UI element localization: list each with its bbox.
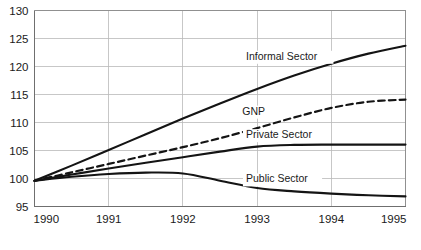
chart-canvas: 13012512011511010510095 1990199119921993… — [0, 0, 421, 250]
y-tick-label-120: 120 — [9, 61, 28, 73]
series-line-public-sector — [35, 172, 406, 196]
x-axis-tick-labels: 199019911992199319941995 — [34, 213, 407, 225]
plot-area-frame — [35, 11, 406, 207]
x-tick-label-1995: 1995 — [381, 213, 407, 225]
series-line-gnp — [35, 100, 406, 181]
series-label-informal-sector: Informal Sector — [246, 50, 318, 62]
y-tick-label-130: 130 — [9, 5, 28, 17]
y-axis-tick-labels: 13012512011511010510095 — [9, 5, 28, 213]
plot-border — [35, 11, 406, 207]
y-tick-label-95: 95 — [16, 201, 29, 213]
series-label-private-sector: Private Sector — [246, 128, 312, 140]
data-series-group — [35, 46, 406, 197]
x-tick-label-1992: 1992 — [170, 213, 196, 225]
series-line-informal-sector — [35, 46, 406, 181]
y-tick-label-125: 125 — [9, 33, 28, 45]
x-tick-label-1994: 1994 — [319, 213, 345, 225]
y-tick-label-110: 110 — [10, 117, 28, 129]
x-tick-label-1990: 1990 — [34, 213, 60, 225]
x-tick-label-1991: 1991 — [96, 213, 122, 225]
y-tick-label-115: 115 — [10, 89, 28, 101]
line-chart: 13012512011511010510095 1990199119921993… — [0, 0, 421, 250]
y-tick-label-100: 100 — [9, 173, 28, 185]
series-inline-labels: Informal SectorGNPPrivate SectorPublic S… — [239, 50, 333, 187]
series-label-public-sector: Public Sector — [246, 172, 308, 184]
series-label-gnp: GNP — [242, 105, 265, 117]
y-tick-label-105: 105 — [9, 145, 28, 157]
horizontal-gridlines — [35, 11, 406, 207]
vertical-gridlines — [35, 11, 406, 207]
x-tick-label-1993: 1993 — [244, 213, 270, 225]
